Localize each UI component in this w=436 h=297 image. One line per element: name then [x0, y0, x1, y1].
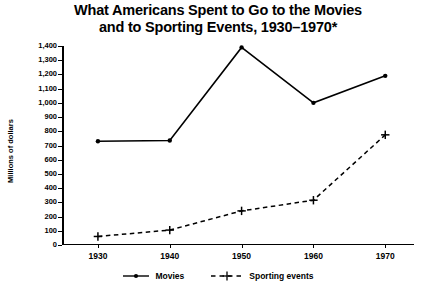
chart-figure: What Americans Spent to Go to the Movies… — [0, 0, 436, 297]
series-movies — [96, 45, 388, 143]
legend-marker-solid-dot-icon — [122, 271, 150, 281]
legend-item-sporting-events[interactable]: Sporting events — [210, 270, 313, 282]
series-layer — [62, 46, 414, 245]
series-line — [98, 135, 385, 237]
y-tick-label: 1,200 — [21, 69, 57, 78]
chart-title-line-1: What Americans Spent to Go to the Movies — [0, 2, 436, 19]
y-tick-label: 1,300 — [21, 55, 57, 64]
y-tick-label: 1,400 — [21, 41, 57, 50]
x-tick-label: 1940 — [160, 251, 179, 261]
legend-marker-dashed-plus-icon — [210, 270, 244, 282]
y-tick-label: 200 — [21, 212, 57, 221]
data-point-marker — [311, 101, 315, 105]
legend-label-movies: Movies — [155, 271, 184, 281]
y-tick-label: 0 — [21, 240, 57, 249]
y-tick-label: 600 — [21, 155, 57, 164]
x-tick-label: 1950 — [232, 251, 251, 261]
legend-label-sporting-events: Sporting events — [249, 271, 313, 281]
chart-title-line-2: and to Sporting Events, 1930–1970* — [0, 19, 436, 36]
legend-item-movies[interactable]: Movies — [122, 271, 184, 281]
y-tick-label: 1,000 — [21, 98, 57, 107]
y-tick-label: 800 — [21, 126, 57, 135]
data-point-marker — [168, 138, 172, 142]
x-tick-label: 1930 — [88, 251, 107, 261]
y-axis-label: Millions of dollars — [6, 96, 15, 206]
data-point-marker — [239, 45, 243, 49]
y-tick-label: 1,100 — [21, 84, 57, 93]
y-tick-label: 400 — [21, 183, 57, 192]
y-tick-label: 700 — [21, 141, 57, 150]
y-tick-label: 500 — [21, 169, 57, 178]
chart-title: What Americans Spent to Go to the Movies… — [0, 2, 436, 36]
y-tick-label: 300 — [21, 197, 57, 206]
chart-legend: Movies Sporting events — [0, 270, 436, 282]
y-tick-label: 100 — [21, 226, 57, 235]
series-sporting-events — [94, 131, 390, 241]
x-tick-label: 1960 — [304, 251, 323, 261]
data-point-marker — [383, 74, 387, 78]
y-tick-label: 900 — [21, 112, 57, 121]
plot-area: 01002003004005006007008009001,0001,1001,… — [62, 46, 414, 245]
data-point-marker — [96, 139, 100, 143]
x-tick-label: 1970 — [376, 251, 395, 261]
series-line — [98, 47, 385, 141]
y-tick-mark — [58, 245, 62, 246]
